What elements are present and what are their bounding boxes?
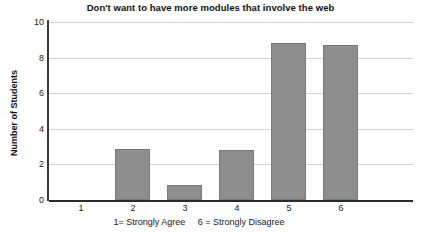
y-axis-tick-label: 6 — [4, 88, 44, 98]
y-axis-tick-label: 10 — [4, 17, 44, 27]
bar-slot — [211, 22, 263, 200]
bar[interactable] — [115, 149, 150, 200]
bar-slot — [159, 22, 211, 200]
chart-title: Don't want to have more modules that inv… — [0, 2, 421, 13]
bar-chart-figure: Don't want to have more modules that inv… — [0, 0, 421, 232]
y-axis-tick-label: 2 — [4, 159, 44, 169]
bar-slot — [263, 22, 315, 200]
y-axis-tick-label: 8 — [4, 53, 44, 63]
bar[interactable] — [219, 150, 254, 200]
x-axis-tick-label: 3 — [159, 203, 211, 213]
x-axis-tick-label: 2 — [107, 203, 159, 213]
bar-slot — [55, 22, 107, 200]
bar-slot — [315, 22, 367, 200]
x-axis-tick-labels: 123456 — [49, 203, 413, 217]
y-axis-tick-labels: 0246810 — [0, 0, 44, 232]
x-axis-tick-label: 1 — [55, 203, 107, 213]
bar[interactable] — [167, 185, 202, 200]
x-axis-tick-label: 6 — [315, 203, 367, 213]
bar-slot — [107, 22, 159, 200]
x-axis-tick-label: 4 — [211, 203, 263, 213]
x-axis-caption: 1= Strongly Agree 6 = Strongly Disagree — [49, 217, 349, 227]
bar[interactable] — [271, 43, 306, 200]
bar[interactable] — [323, 45, 358, 200]
y-axis-tick-label: 0 — [4, 195, 44, 205]
x-axis-tick-label: 5 — [263, 203, 315, 213]
bars-layer — [49, 22, 413, 200]
y-axis-tick-label: 4 — [4, 124, 44, 134]
x-axis-line — [49, 200, 413, 202]
